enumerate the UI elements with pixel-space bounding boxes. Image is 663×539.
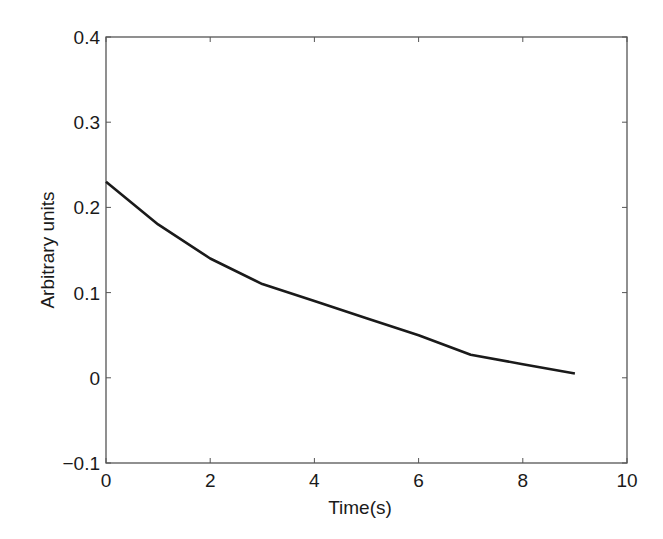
x-tick-label: 0: [101, 470, 112, 491]
x-tick-label: 4: [309, 470, 320, 491]
y-tick-label: 0.1: [74, 283, 100, 304]
y-axis-ticks: [106, 37, 627, 463]
y-tick-label: 0.2: [74, 197, 100, 218]
y-axis-tick-labels: −0.100.10.20.30.4: [62, 27, 100, 474]
y-axis-label: Arbitrary units: [37, 191, 58, 308]
y-tick-label: 0.4: [74, 27, 101, 48]
x-axis-tick-labels: 0246810: [101, 470, 638, 491]
y-tick-label: −0.1: [62, 453, 100, 474]
data-line: [106, 182, 575, 374]
y-tick-label: 0.3: [74, 112, 100, 133]
x-tick-label: 2: [205, 470, 216, 491]
x-tick-label: 6: [413, 470, 424, 491]
y-tick-label: 0: [89, 368, 100, 389]
plot-area: [106, 37, 627, 463]
x-tick-label: 10: [616, 470, 637, 491]
line-chart: 0246810 −0.100.10.20.30.4 Time(s) Arbitr…: [0, 0, 663, 539]
x-tick-label: 8: [518, 470, 529, 491]
x-axis-ticks: [106, 37, 627, 463]
x-axis-label: Time(s): [328, 497, 392, 518]
